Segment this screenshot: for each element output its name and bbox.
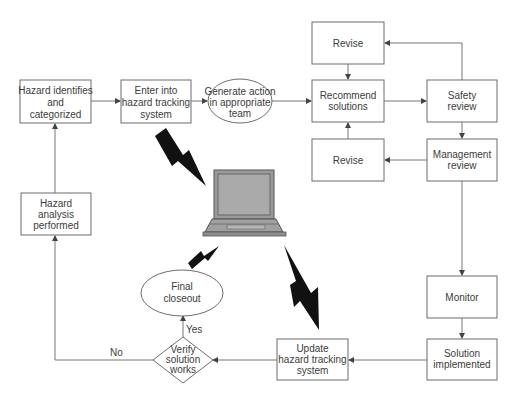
- svg-text:Update: Update: [296, 343, 329, 354]
- svg-text:system: system: [297, 365, 329, 376]
- lightning-bolt-icon: [284, 245, 319, 330]
- svg-text:review: review: [448, 101, 478, 112]
- svg-text:solutions: solutions: [328, 101, 367, 112]
- edge-verify-to-analysis: [55, 236, 153, 360]
- node-monitor[interactable]: Monitor: [427, 276, 497, 318]
- node-solution-implemented[interactable]: Solution implemented: [427, 339, 497, 380]
- svg-text:in appropriate: in appropriate: [209, 97, 271, 108]
- svg-text:performed: performed: [33, 220, 79, 231]
- node-hazard-identifies[interactable]: Hazard identifies and categorized: [18, 80, 92, 123]
- edge-safety-to-revise-top: [385, 43, 462, 80]
- node-hazard-analysis[interactable]: Hazard analysis performed: [21, 193, 91, 235]
- svg-text:and: and: [47, 97, 64, 108]
- edge-label-yes: Yes: [186, 324, 202, 335]
- svg-text:Safety: Safety: [448, 90, 476, 101]
- node-revise-top[interactable]: Revise: [312, 22, 384, 64]
- svg-text:implemented: implemented: [433, 359, 490, 370]
- svg-text:Hazard: Hazard: [40, 198, 72, 209]
- svg-text:Solution: Solution: [444, 348, 480, 359]
- svg-text:team: team: [229, 108, 251, 119]
- lightning-bolt-icon: [155, 128, 206, 186]
- svg-text:system: system: [140, 109, 172, 120]
- node-update-tracking[interactable]: Update hazard tracking system: [277, 339, 348, 380]
- svg-text:review: review: [448, 160, 478, 171]
- node-verify-solution[interactable]: Verify solution works: [153, 337, 213, 383]
- svg-text:Enter into: Enter into: [135, 85, 178, 96]
- node-final-closeout[interactable]: Final closeout: [141, 270, 223, 316]
- node-recommend-solutions[interactable]: Recommend solutions: [312, 80, 384, 122]
- laptop-icon: [203, 170, 286, 236]
- lightning-bolt-icon: [188, 246, 219, 269]
- svg-text:Management: Management: [433, 149, 492, 160]
- svg-text:hazard tracking: hazard tracking: [122, 97, 190, 108]
- node-generate-action[interactable]: Generate action in appropriate team: [204, 79, 275, 123]
- svg-text:closeout: closeout: [163, 293, 200, 304]
- svg-text:Hazard identifies: Hazard identifies: [18, 85, 92, 96]
- svg-text:analysis: analysis: [38, 209, 74, 220]
- svg-text:Final: Final: [171, 281, 193, 292]
- svg-text:categorized: categorized: [30, 109, 82, 120]
- edge-label-no: No: [110, 347, 123, 358]
- svg-text:hazard tracking: hazard tracking: [278, 354, 346, 365]
- node-safety-review[interactable]: Safety review: [427, 80, 497, 122]
- svg-text:Recommend: Recommend: [320, 90, 377, 101]
- node-management-review[interactable]: Management review: [427, 139, 497, 181]
- node-enter-tracking[interactable]: Enter into hazard tracking system: [121, 80, 191, 123]
- svg-text:Revise: Revise: [333, 38, 364, 49]
- svg-text:Monitor: Monitor: [445, 292, 479, 303]
- svg-text:Revise: Revise: [333, 155, 364, 166]
- node-revise-bottom[interactable]: Revise: [312, 139, 384, 181]
- hazard-tracking-flowchart: Yes No Hazard identifies and categorized…: [0, 0, 518, 395]
- svg-text:Generate action: Generate action: [204, 86, 275, 97]
- svg-text:works: works: [169, 364, 196, 375]
